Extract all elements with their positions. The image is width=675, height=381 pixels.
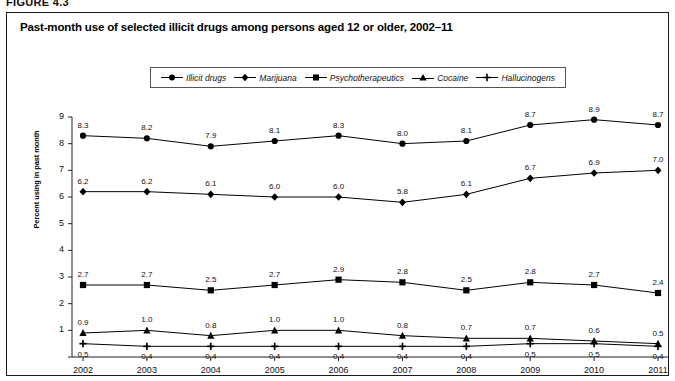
data-point-label: 0.9 [72, 318, 94, 327]
y-tick-label: 5 [50, 218, 64, 228]
data-point-label: 0.4 [328, 352, 350, 361]
data-point-label: 2.5 [455, 275, 477, 284]
data-point-label: 6.0 [328, 182, 350, 191]
plus-marker-icon [476, 72, 498, 83]
data-point-label: 0.6 [583, 326, 605, 335]
data-point-label: 6.2 [136, 177, 158, 186]
data-point-label: 2.5 [200, 275, 222, 284]
data-point-label: 0.5 [72, 350, 94, 359]
data-point-label: 2.7 [72, 270, 94, 279]
data-point-label: 8.1 [455, 126, 477, 135]
y-tick-label: 1 [50, 324, 64, 334]
chart-legend: Illicit drugs Marijuana Psychotherapeuti… [150, 67, 566, 88]
x-tick-label: 2003 [127, 365, 167, 375]
data-point-label: 2.7 [264, 270, 286, 279]
y-axis-label: Percent using in past month [32, 115, 41, 245]
data-point-label: 0.4 [136, 352, 158, 361]
data-point-label: 1.0 [136, 315, 158, 324]
x-tick-label: 2008 [446, 365, 486, 375]
x-tick-label: 2011 [638, 365, 675, 375]
data-point-label: 6.1 [200, 179, 222, 188]
legend-item-illicit-drugs[interactable]: Illicit drugs [161, 72, 226, 83]
data-point-label: 1.0 [328, 315, 350, 324]
diamond-marker-icon [234, 72, 256, 83]
data-point-label: 7.9 [200, 131, 222, 140]
data-point-label: 0.5 [583, 350, 605, 359]
data-point-label: 8.9 [583, 105, 605, 114]
x-tick-label: 2006 [319, 365, 359, 375]
legend-label: Cocaine [437, 73, 468, 83]
data-point-label: 5.8 [391, 187, 413, 196]
data-point-label: 0.4 [391, 352, 413, 361]
data-point-label: 0.4 [455, 352, 477, 361]
data-point-label: 0.8 [391, 321, 413, 330]
data-point-label: 2.8 [391, 267, 413, 276]
data-point-label: 0.4 [264, 352, 286, 361]
data-point-label: 0.7 [519, 323, 541, 332]
legend-item-hallucinogens[interactable]: Hallucinogens [476, 72, 554, 83]
y-tick-label: 6 [50, 191, 64, 201]
y-tick-label: 7 [50, 164, 64, 174]
figure-label: FIGURE 4.3 [6, 0, 69, 8]
data-point-label: 2.4 [647, 278, 669, 287]
data-point-label: 8.3 [328, 121, 350, 130]
data-point-label: 0.8 [200, 321, 222, 330]
chart-title: Past-month use of selected illicit drugs… [20, 21, 453, 33]
square-marker-icon [305, 72, 327, 83]
legend-label: Illicit drugs [186, 73, 226, 83]
data-point-label: 0.5 [647, 329, 669, 338]
data-point-label: 8.1 [264, 126, 286, 135]
data-point-label: 7.0 [647, 155, 669, 164]
triangle-marker-icon [412, 72, 434, 83]
legend-label: Marijuana [259, 73, 296, 83]
data-point-label: 0.4 [200, 352, 222, 361]
legend-item-cocaine[interactable]: Cocaine [412, 72, 468, 83]
x-tick-label: 2010 [574, 365, 614, 375]
y-tick-label: 4 [50, 244, 64, 254]
legend-item-marijuana[interactable]: Marijuana [234, 72, 296, 83]
data-point-label: 2.7 [583, 270, 605, 279]
data-point-label: 2.7 [136, 270, 158, 279]
y-tick-label: 9 [50, 111, 64, 121]
x-tick-label: 2004 [191, 365, 231, 375]
legend-label: Hallucinogens [501, 73, 554, 83]
y-tick-label: 2 [50, 298, 64, 308]
x-tick-label: 2009 [510, 365, 550, 375]
data-point-label: 0.5 [519, 350, 541, 359]
data-point-label: 0.7 [455, 323, 477, 332]
y-tick-label: 8 [50, 138, 64, 148]
x-tick-label: 2002 [63, 365, 103, 375]
data-point-label: 8.3 [72, 121, 94, 130]
legend-item-psychotherapeutics[interactable]: Psychotherapeutics [305, 72, 404, 83]
data-point-label: 6.1 [455, 179, 477, 188]
data-point-label: 1.0 [264, 315, 286, 324]
y-tick-label: 3 [50, 271, 64, 281]
legend-label: Psychotherapeutics [330, 73, 404, 83]
x-tick-label: 2007 [382, 365, 422, 375]
data-point-label: 6.9 [583, 158, 605, 167]
data-point-label: 6.0 [264, 182, 286, 191]
data-point-label: 8.0 [391, 129, 413, 138]
data-point-label: 2.9 [328, 265, 350, 274]
data-point-label: 0.4 [647, 352, 669, 361]
circle-marker-icon [161, 72, 183, 83]
x-tick-label: 2005 [255, 365, 295, 375]
data-point-label: 6.2 [72, 177, 94, 186]
data-point-label: 6.7 [519, 163, 541, 172]
data-point-label: 8.7 [647, 110, 669, 119]
data-point-label: 2.8 [519, 267, 541, 276]
data-point-label: 8.2 [136, 123, 158, 132]
data-point-label: 8.7 [519, 110, 541, 119]
